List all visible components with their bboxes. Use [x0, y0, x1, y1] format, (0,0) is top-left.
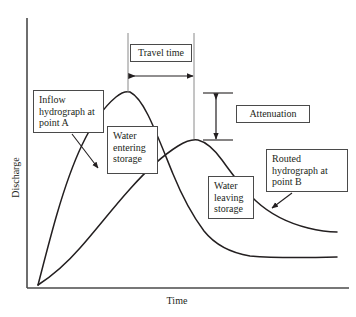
hydrograph-routing-figure: Discharge Time Inflow hydrograph at poin… — [0, 0, 356, 317]
routed-hydrograph-callout: Routed hydrograph at point B — [266, 149, 348, 192]
attenuation-label: Attenuation — [236, 105, 310, 123]
routed-callout-leader — [272, 193, 292, 208]
water-leaving-storage-callout: Water leaving storage — [208, 176, 254, 219]
x-axis-label: Time — [147, 295, 207, 306]
travel-time-label: Travel time — [130, 44, 192, 62]
inflow-hydrograph-callout: Inflow hydrograph at point A — [33, 90, 104, 133]
water-entering-storage-callout: Water entering storage — [107, 126, 158, 174]
y-axis-label: Discharge — [10, 147, 21, 209]
